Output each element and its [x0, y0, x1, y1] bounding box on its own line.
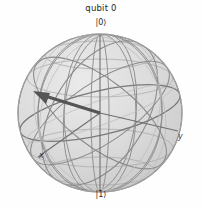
- bloch-sphere-canvas: [0, 0, 202, 210]
- bloch-sphere-figure: qubit 0 |0⟩: [0, 0, 202, 210]
- axis-y-label: y: [178, 132, 183, 141]
- axis-x-label: x: [39, 151, 44, 160]
- ket-one-label: |1⟩: [0, 190, 202, 199]
